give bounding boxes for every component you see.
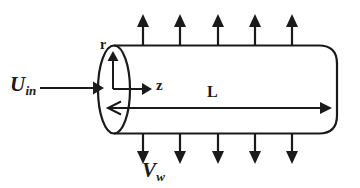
flux-arrow-top [286,14,298,46]
porous-tube-flow-figure: Uin Vw r z L [0,0,360,188]
inlet-velocity-symbol: U [10,72,25,96]
inlet-velocity-subscript: in [25,83,36,98]
wall-flux-arrows-top [137,14,298,46]
length-dimension-arrow [108,102,332,115]
wall-velocity-label: Vw [142,160,165,181]
flux-arrow-bottom [174,134,186,165]
radial-axis-arrow-head [108,51,119,61]
flux-arrow-head [174,14,186,27]
flux-arrow-head [249,14,261,27]
inlet-velocity-arrow [40,82,104,95]
flux-arrow-head [174,151,186,164]
flux-arrow-bottom [249,134,261,165]
flux-arrow-bottom [212,134,224,165]
wall-velocity-symbol: V [142,158,156,182]
length-arrow-head-right [320,102,332,114]
flux-arrow-head [212,14,224,27]
wall-velocity-subscript: w [156,169,165,184]
flux-arrow-top [212,14,224,46]
axial-axis-arrow-head [142,83,152,95]
flux-arrow-bottom [286,134,298,165]
flux-arrow-head [286,14,298,27]
length-label: L [207,84,218,100]
flux-arrow-head [212,151,224,164]
flux-arrow-head [137,14,149,27]
flux-arrow-top [174,14,186,46]
radial-axis-label: r [100,38,106,52]
flux-arrow-head [286,151,298,164]
inlet-velocity-label: Uin [10,74,36,95]
flux-arrow-top [249,14,261,46]
flux-arrow-top [137,14,149,46]
flux-arrow-head [249,151,261,164]
figure-canvas [0,0,360,188]
axial-axis-label: z [156,78,163,93]
